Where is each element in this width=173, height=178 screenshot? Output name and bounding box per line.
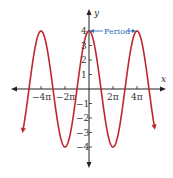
y-axis-up-arrow-icon [87,9,92,15]
x-axis-right-arrow-icon [160,87,166,92]
sinusoid-graph: Period x y −4π −2π 2π 4π 4 3 2 1 −1 −2 −… [0,0,173,178]
xtick-label-4pi: 4π [131,92,143,102]
period-label: Period [104,27,130,36]
ytick-label-3: 3 [81,41,87,51]
ytick-label-m3: −3 [76,128,90,138]
period-annotation: Period [90,27,136,36]
ytick-label-m4: −4 [76,142,90,152]
ytick-label-4: 4 [81,26,87,36]
curve-left-arrow-icon [21,128,26,133]
ytick-label-m2: −2 [76,113,89,123]
xtick-label-2pi: 2π [107,92,119,102]
ytick-label-m1: −1 [76,99,89,109]
xtick-label-m4pi: −4π [32,92,51,102]
x-axis-label: x [161,74,166,84]
curve-right-arrow-icon [152,124,157,129]
y-axis-down-arrow-icon [87,162,92,168]
x-axis-left-arrow-icon [11,87,17,92]
ytick-label-1: 1 [81,70,87,80]
xtick-label-m2pi: −2π [56,92,75,102]
ytick-label-2: 2 [81,55,87,65]
y-axis-label: y [93,8,100,18]
